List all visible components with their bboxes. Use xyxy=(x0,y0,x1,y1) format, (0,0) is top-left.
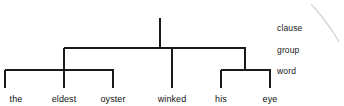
word-eldest: eldest xyxy=(52,94,77,104)
figure-canvas: clause group word the eldest oyster wink… xyxy=(0,0,344,106)
rank-label-word: word xyxy=(277,66,296,76)
rank-label-clause: clause xyxy=(277,23,302,33)
rank-label-group: group xyxy=(277,45,300,55)
tree-lines xyxy=(5,18,271,88)
word-the: the xyxy=(10,94,23,104)
word-his: his xyxy=(215,94,227,104)
word-oyster: oyster xyxy=(100,94,125,104)
word-winked: winked xyxy=(158,94,187,104)
word-eye: eye xyxy=(263,94,278,104)
